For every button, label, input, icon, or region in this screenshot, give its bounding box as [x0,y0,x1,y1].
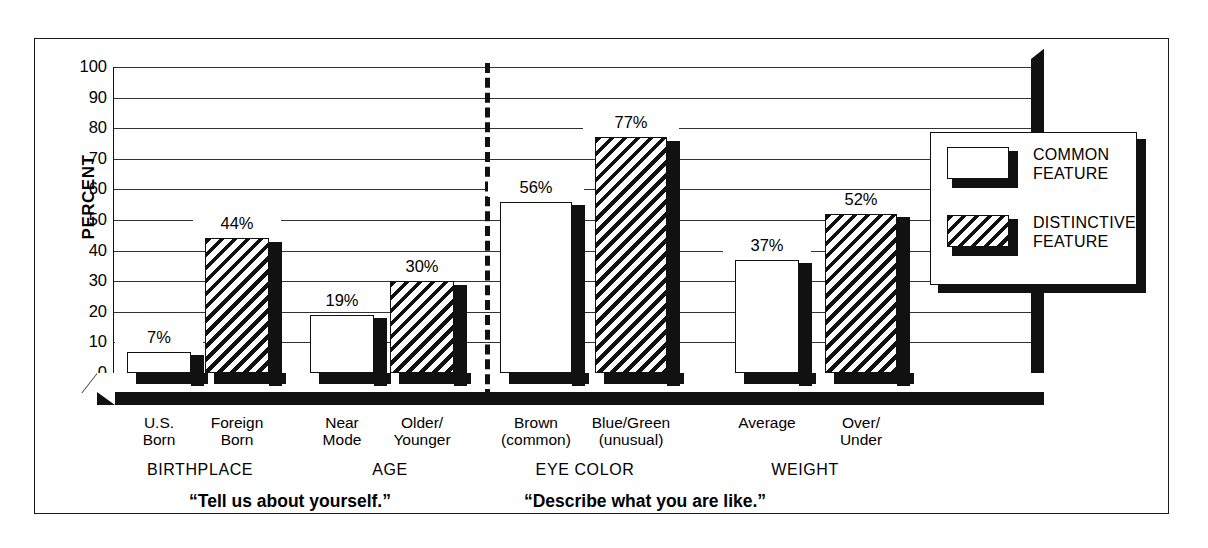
x-axis-group-label: BIRTHPLACE [125,461,275,479]
x-axis-category-label: Over/ Under [797,414,925,448]
bar-distinctive [595,137,667,373]
bar-distinctive [825,214,897,373]
bar-value-label: 44% [193,214,281,233]
legend-label-common-feature: COMMON FEATURE [1033,145,1109,183]
legend-label-distinctive-feature: DISTINCTIVE FEATURE [1033,213,1136,251]
bar-value-label: 77% [583,113,679,132]
gridline: 100 [114,67,1032,68]
bar-bottom-face [214,373,286,384]
bar-value-label: 56% [488,178,584,197]
gridline: 90 [114,98,1032,99]
x-axis-category-label: Blue/Green (unusual) [567,414,695,448]
legend: COMMON FEATURE DISTINCTIVE FEATURE [930,132,1137,285]
bar-value-label: 52% [813,190,909,209]
legend-swatch-distinctive-bottom [952,247,1018,256]
bar-value-label: 7% [115,328,203,347]
bar-bottom-face [834,373,914,384]
y-axis-tick: 90 [67,88,107,107]
chart-frame: PERCENT 1009080706050403020100 7%44%19%3… [34,38,1169,514]
legend-swatch-distinctive-feature [947,215,1009,247]
bar-bottom-face [136,373,208,384]
bar-value-label: 30% [378,257,466,276]
x-axis-category-label: Older/ Younger [362,414,482,448]
gridline: 70 [114,159,1032,160]
bar-bottom-face [319,373,391,384]
bar-side-face [667,141,680,387]
bar-common [310,315,374,373]
bar-side-face [454,285,467,387]
bar-bottom-face [744,373,816,384]
quote-left: “Tell us about yourself.” [145,491,435,512]
bar-chart: PERCENT 1009080706050403020100 7%44%19%3… [35,39,1168,513]
plot-floor [97,392,1044,405]
bar-bottom-face [604,373,684,384]
bar-side-face [897,217,910,386]
bar-value-label: 37% [723,236,811,255]
x-axis-category-label: Foreign Born [177,414,297,448]
x-axis-group-label: WEIGHT [725,461,885,479]
bar-side-face [269,242,282,387]
x-axis-group-label: EYE COLOR [495,461,675,479]
quote-right: “Describe what you are like.” [480,491,810,512]
legend-swatch-common-bottom [952,179,1018,188]
y-axis-tick: 100 [67,57,107,76]
y-axis-tick: 20 [67,302,107,321]
bar-bottom-face [509,373,589,384]
y-axis-tick: 60 [67,179,107,198]
y-axis-tick: 70 [67,149,107,168]
y-axis-tick: 30 [67,271,107,290]
y-axis-tick: 40 [67,241,107,260]
y-axis-tick: 10 [67,332,107,351]
bar-side-face [572,205,585,386]
bar-side-face [799,263,812,386]
bar-value-label: 19% [298,291,386,310]
legend-shadow-bottom [938,284,1146,293]
x-axis-group-label: AGE [315,461,465,479]
legend-item-common: COMMON FEATURE [947,147,1127,193]
legend-swatch-common-feature [947,147,1009,179]
legend-shadow-right [1136,139,1146,292]
legend-item-distinctive: DISTINCTIVE FEATURE [947,215,1127,261]
y-axis-tick: 50 [67,210,107,229]
bar-distinctive [390,281,454,373]
gridline: 80 [114,128,1032,129]
bar-common [127,352,191,373]
y-axis-tick: 80 [67,118,107,137]
section-divider-dashed [485,63,490,399]
bar-common [500,202,572,373]
bar-distinctive [205,238,269,373]
bar-common [735,260,799,373]
bar-bottom-face [399,373,471,384]
